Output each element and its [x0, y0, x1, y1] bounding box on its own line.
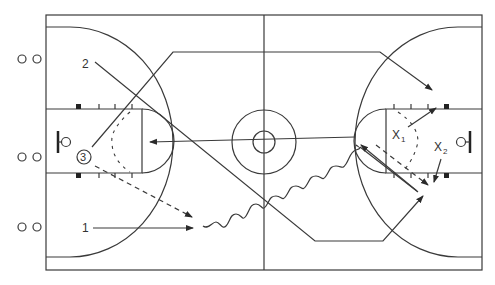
- x1-rotation-arrow: [408, 108, 436, 127]
- x2-rotation-arrow: [434, 159, 441, 182]
- court-svg: 3 2 1 X 1 X 2: [0, 0, 495, 285]
- x2-sub: 2: [443, 147, 448, 156]
- x2-label: X: [434, 140, 442, 154]
- court-lines: [46, 15, 482, 270]
- player1-label: 1: [82, 221, 89, 235]
- player-paths: [92, 52, 441, 241]
- player3-label: 3: [80, 151, 86, 163]
- x1-sub: 1: [401, 135, 406, 144]
- bench-marks: [18, 55, 41, 231]
- x1-label: X: [392, 128, 400, 142]
- play-diagram: 3 2 1 X 1 X 2: [0, 0, 495, 285]
- pass-arrow-3: [95, 166, 192, 217]
- player2-label: 2: [82, 57, 89, 71]
- dribble-path: [203, 145, 360, 227]
